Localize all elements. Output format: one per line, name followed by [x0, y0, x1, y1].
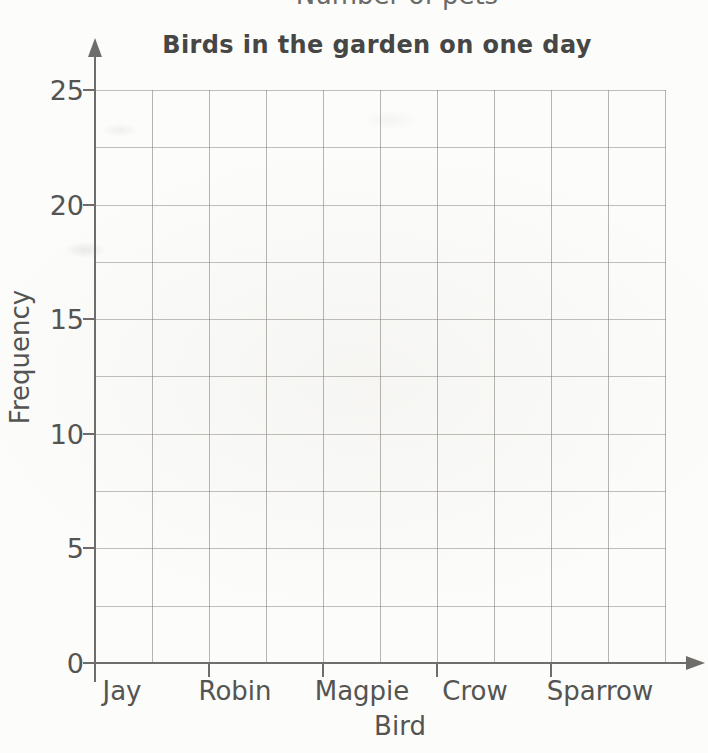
y-tick-label-20: 20	[50, 191, 84, 218]
y-axis-line	[94, 50, 96, 682]
y-tick-label-15: 15	[50, 306, 84, 333]
plot-grid	[95, 90, 666, 664]
x-category-label-crow: Crow	[442, 676, 507, 707]
y-tick-10	[83, 433, 95, 435]
x-axis-title: Bird	[374, 713, 426, 739]
y-tick-5	[83, 547, 95, 549]
y-tick-label-5: 5	[67, 535, 84, 562]
x-tick-2	[322, 663, 324, 677]
y-axis-title: Frequency	[7, 290, 33, 424]
y-tick-label-10: 10	[50, 420, 84, 447]
y-tick-20	[83, 204, 95, 206]
y-tick-15	[83, 318, 95, 320]
x-tick-4	[550, 663, 552, 677]
x-category-label-jay: Jay	[103, 676, 142, 707]
y-tick-label-25: 25	[50, 77, 84, 104]
y-tick-label-0: 0	[67, 650, 84, 677]
y-axis-arrow-icon	[88, 38, 102, 57]
chart-title: Birds in the garden on one day	[162, 31, 592, 59]
x-axis-line	[94, 662, 690, 664]
x-category-label-sparrow: Sparrow	[547, 676, 653, 707]
cropped-previous-chart-label: Number of pets	[296, 0, 498, 8]
x-category-label-robin: Robin	[198, 676, 271, 707]
x-tick-1	[208, 663, 210, 677]
x-axis-arrow-icon	[686, 656, 705, 670]
x-category-label-magpie: Magpie	[315, 676, 410, 707]
x-tick-3	[436, 663, 438, 677]
x-tick-0	[94, 663, 96, 677]
y-tick-25	[83, 89, 95, 91]
